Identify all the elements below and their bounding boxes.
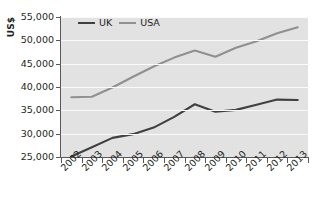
y-axis-tick-mark — [56, 40, 61, 41]
gridline — [61, 110, 308, 111]
y-axis-tick-mark — [56, 64, 61, 65]
line-chart: US$ 25,00030,00035,00040,00045,00050,000… — [0, 0, 322, 211]
y-axis-tick-label: 40,000 — [10, 82, 54, 92]
legend-item-uk[interactable]: UK — [78, 18, 112, 28]
legend-label-usa: USA — [140, 18, 160, 28]
plot-area — [61, 17, 308, 157]
y-axis-tick-mark — [56, 157, 61, 158]
series-line-uk — [71, 100, 297, 157]
legend-label-uk: UK — [99, 18, 112, 28]
y-axis-tick-label: 30,000 — [10, 129, 54, 139]
x-axis-tick-mark — [308, 158, 309, 163]
y-axis-tick-label: 25,000 — [10, 152, 54, 162]
y-axis-tick-label: 45,000 — [10, 59, 54, 69]
gridline — [61, 87, 308, 88]
y-axis-tick-label: 35,000 — [10, 105, 54, 115]
gridline — [61, 134, 308, 135]
legend-swatch-uk — [78, 22, 95, 24]
y-axis-tick-labels: 25,00030,00035,00040,00045,00050,00055,0… — [8, 0, 54, 211]
gridline — [61, 40, 308, 41]
gridline — [61, 64, 308, 65]
legend-item-usa[interactable]: USA — [119, 18, 160, 28]
y-axis-tick-mark — [56, 87, 61, 88]
chart-legend: UKUSA — [78, 18, 160, 28]
y-axis-tick-mark — [56, 110, 61, 111]
y-axis-tick-label: 55,000 — [10, 12, 54, 22]
legend-swatch-usa — [119, 22, 136, 24]
y-axis-tick-mark — [56, 17, 61, 18]
y-axis-tick-label: 50,000 — [10, 35, 54, 45]
y-axis-tick-mark — [56, 134, 61, 135]
